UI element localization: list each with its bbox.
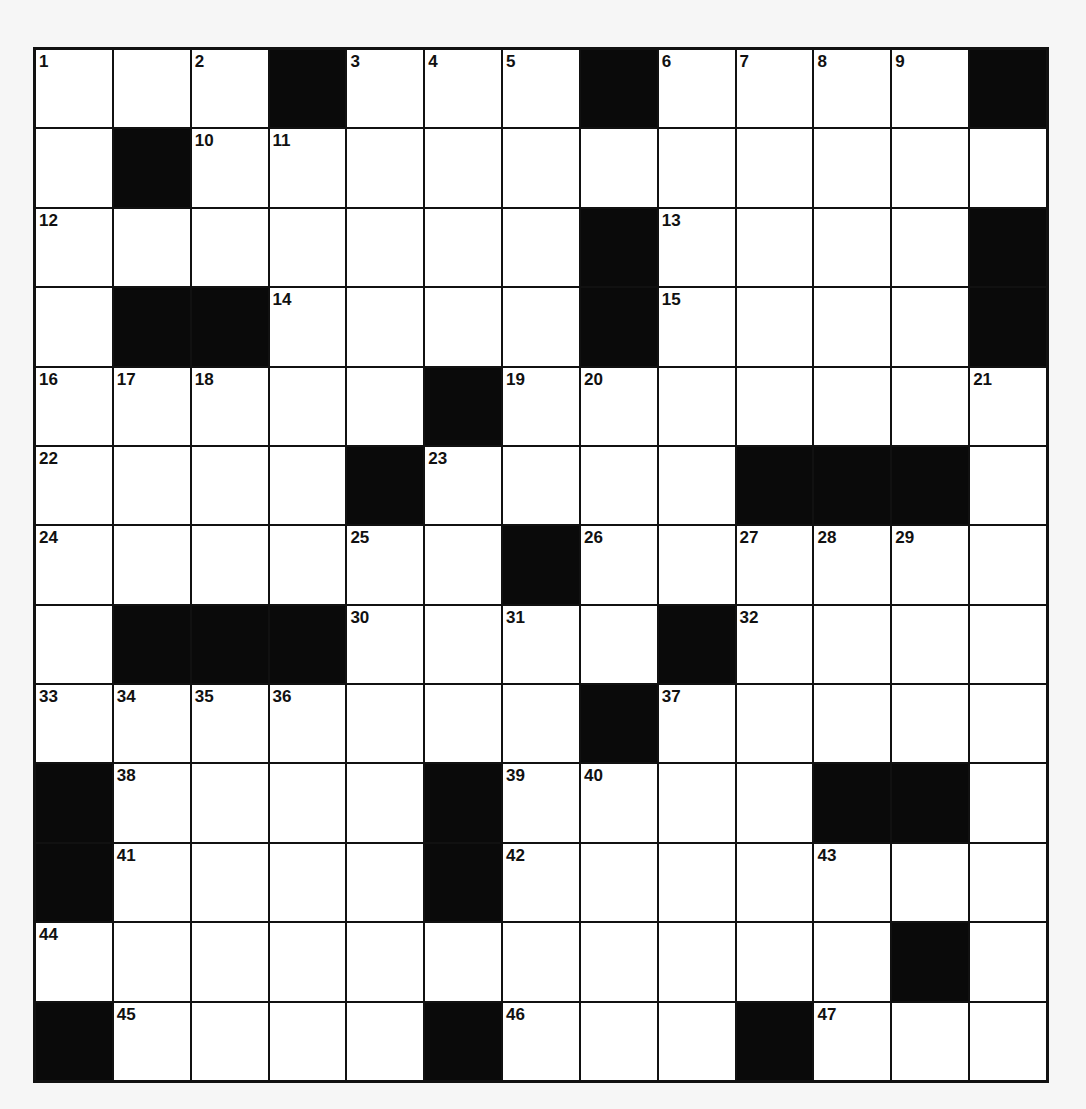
grid-cell[interactable]: [347, 129, 423, 206]
grid-cell[interactable]: [970, 764, 1046, 841]
grid-cell[interactable]: [737, 368, 813, 445]
grid-cell[interactable]: [581, 129, 657, 206]
grid-cell[interactable]: [114, 50, 190, 127]
grid-cell[interactable]: [270, 447, 346, 524]
grid-cell[interactable]: [659, 526, 735, 603]
grid-cell[interactable]: [425, 923, 501, 1000]
grid-cell[interactable]: 15: [659, 288, 735, 365]
grid-cell[interactable]: 17: [114, 368, 190, 445]
grid-cell[interactable]: [737, 209, 813, 286]
grid-cell[interactable]: [970, 129, 1046, 206]
grid-cell[interactable]: [737, 685, 813, 762]
grid-cell[interactable]: [270, 844, 346, 921]
grid-cell[interactable]: [503, 685, 579, 762]
grid-cell[interactable]: [425, 685, 501, 762]
grid-cell[interactable]: [892, 844, 968, 921]
grid-cell[interactable]: [970, 526, 1046, 603]
grid-cell[interactable]: 4: [425, 50, 501, 127]
grid-cell[interactable]: [814, 129, 890, 206]
grid-cell[interactable]: [192, 844, 268, 921]
grid-cell[interactable]: [347, 764, 423, 841]
grid-cell[interactable]: [659, 447, 735, 524]
grid-cell[interactable]: 31: [503, 606, 579, 683]
grid-cell[interactable]: [347, 368, 423, 445]
grid-cell[interactable]: 10: [192, 129, 268, 206]
grid-cell[interactable]: 21: [970, 368, 1046, 445]
grid-cell[interactable]: [114, 923, 190, 1000]
grid-cell[interactable]: [347, 1003, 423, 1080]
grid-cell[interactable]: 34: [114, 685, 190, 762]
grid-cell[interactable]: [36, 129, 112, 206]
grid-cell[interactable]: [425, 288, 501, 365]
grid-cell[interactable]: 35: [192, 685, 268, 762]
grid-cell[interactable]: [814, 685, 890, 762]
grid-cell[interactable]: [659, 844, 735, 921]
grid-cell[interactable]: 42: [503, 844, 579, 921]
grid-cell[interactable]: 22: [36, 447, 112, 524]
grid-cell[interactable]: [114, 447, 190, 524]
grid-cell[interactable]: 29: [892, 526, 968, 603]
grid-cell[interactable]: [347, 685, 423, 762]
grid-cell[interactable]: [270, 209, 346, 286]
grid-cell[interactable]: 5: [503, 50, 579, 127]
grid-cell[interactable]: 37: [659, 685, 735, 762]
grid-cell[interactable]: [737, 923, 813, 1000]
grid-cell[interactable]: 38: [114, 764, 190, 841]
grid-cell[interactable]: 46: [503, 1003, 579, 1080]
grid-cell[interactable]: [36, 288, 112, 365]
grid-cell[interactable]: [270, 526, 346, 603]
grid-cell[interactable]: 14: [270, 288, 346, 365]
grid-cell[interactable]: [425, 526, 501, 603]
grid-cell[interactable]: [425, 606, 501, 683]
grid-cell[interactable]: [892, 685, 968, 762]
grid-cell[interactable]: [192, 526, 268, 603]
grid-cell[interactable]: [114, 526, 190, 603]
grid-cell[interactable]: 27: [737, 526, 813, 603]
grid-cell[interactable]: [892, 606, 968, 683]
grid-cell[interactable]: 28: [814, 526, 890, 603]
grid-cell[interactable]: [503, 129, 579, 206]
grid-cell[interactable]: [36, 606, 112, 683]
grid-cell[interactable]: [659, 764, 735, 841]
grid-cell[interactable]: 3: [347, 50, 423, 127]
grid-cell[interactable]: 26: [581, 526, 657, 603]
grid-cell[interactable]: 39: [503, 764, 579, 841]
grid-cell[interactable]: [970, 923, 1046, 1000]
grid-cell[interactable]: 18: [192, 368, 268, 445]
grid-cell[interactable]: [270, 368, 346, 445]
grid-cell[interactable]: 44: [36, 923, 112, 1000]
grid-cell[interactable]: [892, 1003, 968, 1080]
grid-cell[interactable]: 24: [36, 526, 112, 603]
grid-cell[interactable]: [970, 1003, 1046, 1080]
grid-cell[interactable]: [892, 288, 968, 365]
grid-cell[interactable]: 43: [814, 844, 890, 921]
grid-cell[interactable]: [970, 685, 1046, 762]
grid-cell[interactable]: [659, 129, 735, 206]
grid-cell[interactable]: [659, 368, 735, 445]
grid-cell[interactable]: 16: [36, 368, 112, 445]
grid-cell[interactable]: [737, 764, 813, 841]
grid-cell[interactable]: [347, 288, 423, 365]
grid-cell[interactable]: [892, 209, 968, 286]
grid-cell[interactable]: [970, 606, 1046, 683]
grid-cell[interactable]: [347, 844, 423, 921]
grid-cell[interactable]: [503, 923, 579, 1000]
grid-cell[interactable]: [892, 129, 968, 206]
grid-cell[interactable]: [503, 288, 579, 365]
grid-cell[interactable]: [814, 209, 890, 286]
grid-cell[interactable]: [425, 129, 501, 206]
grid-cell[interactable]: [347, 923, 423, 1000]
grid-cell[interactable]: 2: [192, 50, 268, 127]
grid-cell[interactable]: [581, 923, 657, 1000]
grid-cell[interactable]: [503, 209, 579, 286]
grid-cell[interactable]: [970, 447, 1046, 524]
grid-cell[interactable]: [659, 1003, 735, 1080]
grid-cell[interactable]: 19: [503, 368, 579, 445]
grid-cell[interactable]: 12: [36, 209, 112, 286]
grid-cell[interactable]: 20: [581, 368, 657, 445]
grid-cell[interactable]: [814, 923, 890, 1000]
grid-cell[interactable]: [814, 606, 890, 683]
grid-cell[interactable]: 30: [347, 606, 423, 683]
grid-cell[interactable]: 23: [425, 447, 501, 524]
grid-cell[interactable]: [425, 209, 501, 286]
